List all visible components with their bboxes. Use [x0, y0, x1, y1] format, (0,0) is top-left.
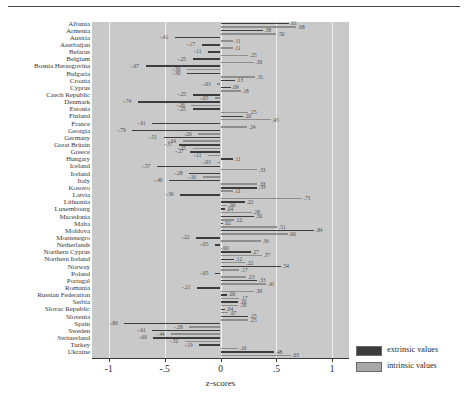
value-label: -.11 [193, 49, 201, 54]
row-bars: .38.50 [92, 29, 349, 36]
bar-extrinsic [221, 259, 234, 261]
legend-label-extrinsic: extrinsic values [387, 344, 438, 356]
bar-extrinsic [221, 158, 233, 160]
bar-extrinsic [193, 108, 221, 110]
value-label: -.28 [174, 171, 182, 176]
legend-item-intrinsic: intrinsic values [356, 360, 466, 373]
value-label: -.60 [138, 335, 146, 340]
row-bars: -.22.36 [92, 236, 349, 243]
x-tick [332, 358, 333, 362]
bar-extrinsic [215, 244, 221, 246]
row-bars: .30.12 [92, 215, 349, 222]
top-divider [8, 6, 460, 7]
bar-intrinsic [198, 133, 220, 135]
row-bars: .25.25 [92, 315, 349, 322]
value-label: -.19 [184, 343, 192, 348]
bar-intrinsic [221, 62, 255, 64]
row-bars: .33.41 [92, 279, 349, 286]
bar-extrinsic [221, 208, 225, 210]
bar-extrinsic [175, 37, 221, 39]
country-rows: Albania.61.68Armenia.38.50Austria-.41.11… [0, 22, 468, 358]
value-label: -.17 [187, 42, 195, 47]
row-bars: -.19.16 [92, 344, 349, 351]
bar-intrinsic [221, 90, 241, 92]
row-bars: -.57.33 [92, 165, 349, 172]
value-label: -.61 [137, 121, 145, 126]
bar-intrinsic [221, 26, 297, 28]
value-label: -.41 [160, 35, 168, 40]
row-bars: -.28-.16 [92, 172, 349, 179]
bar-extrinsic [221, 87, 231, 89]
value-label: -.36 [165, 192, 173, 197]
value-label: -.86 [109, 321, 117, 326]
x-tick [109, 358, 110, 362]
row-bars: .33.11 [92, 186, 349, 193]
bar-intrinsic [217, 162, 220, 164]
value-label: -.25 [178, 57, 186, 62]
row-bars: -.05.00 [92, 244, 349, 251]
x-axis: z-scores -1-.50.51 [92, 358, 349, 398]
legend-swatch-extrinsic [356, 346, 382, 356]
value-label: -.25 [178, 92, 186, 97]
row-bars: -.61-.44 [92, 329, 349, 336]
x-tick [165, 358, 166, 362]
row-bars: .09.18 [92, 86, 349, 93]
bar-extrinsic [202, 44, 221, 46]
bar-extrinsic [187, 73, 221, 75]
value-label: -.21 [182, 285, 190, 290]
row-bars: -.17.11 [92, 43, 349, 50]
bar-intrinsic [221, 40, 233, 42]
row-bars: -.36.73 [92, 194, 349, 201]
bar-extrinsic [193, 58, 221, 60]
bar-extrinsic [197, 287, 220, 289]
bar-intrinsic [187, 69, 221, 71]
bar-extrinsic [221, 294, 228, 296]
value-label: -.25 [178, 107, 186, 112]
legend-label-intrinsic: intrinsic values [387, 360, 437, 372]
bar-intrinsic [191, 105, 220, 107]
row-bars: -.46.33 [92, 179, 349, 186]
row-bars: -.11.25 [92, 51, 349, 58]
bar-extrinsic [196, 237, 221, 239]
country-label: Ireland [0, 171, 90, 178]
value-label: .54 [282, 264, 289, 269]
bar-intrinsic [221, 276, 247, 278]
x-tick-label: 1 [330, 364, 335, 374]
x-tick-label: -1 [105, 364, 113, 374]
bar-extrinsic [221, 280, 258, 282]
legend-item-extrinsic: extrinsic values [356, 344, 466, 357]
value-label: -.61 [137, 328, 145, 333]
row-bars: .13-.03 [92, 79, 349, 86]
x-tick-label: 0 [218, 364, 223, 374]
bar-extrinsic [169, 180, 220, 182]
value-label: -.79 [117, 128, 125, 133]
row-bars: .11-.03 [92, 158, 349, 165]
row-bars: .22.06 [92, 201, 349, 208]
bar-intrinsic [203, 176, 221, 178]
value-label: .33 [259, 185, 266, 190]
bar-intrinsic [221, 55, 249, 57]
value-label: -.05 [200, 271, 208, 276]
row-bars: -.74-.26 [92, 101, 349, 108]
value-label: .11 [234, 157, 240, 162]
bar-extrinsic [208, 51, 220, 53]
row-bars: .12.22 [92, 258, 349, 265]
chart-figure: Albania.61.68Armenia.38.50Austria-.41.11… [0, 14, 468, 410]
bar-extrinsic [221, 351, 275, 353]
bar-extrinsic [215, 273, 221, 275]
row-bars: -.60-.32 [92, 337, 349, 344]
bar-extrinsic [180, 194, 220, 196]
bar-intrinsic [221, 33, 277, 35]
value-label: -.51 [149, 135, 157, 140]
bar-intrinsic [183, 140, 221, 142]
row-bars: .61.68 [92, 22, 349, 29]
value-label: .13 [237, 78, 244, 83]
row-bars: -.79-.20 [92, 129, 349, 136]
bar-intrinsic [171, 333, 220, 335]
x-tick-label: .5 [273, 364, 280, 374]
value-label: .30 [256, 214, 263, 219]
bar-intrinsic [221, 298, 240, 300]
bar-extrinsic [221, 80, 236, 82]
bar-extrinsic [146, 65, 221, 67]
bar-intrinsic [208, 155, 220, 157]
